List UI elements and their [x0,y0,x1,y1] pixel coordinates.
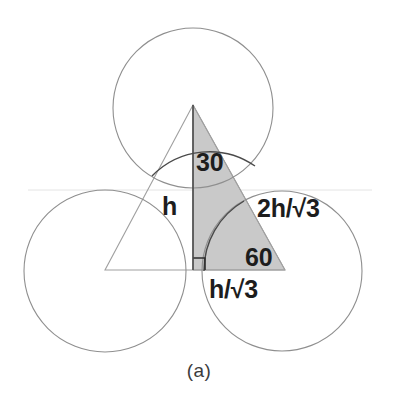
side-label-hypotenuse: 2h/√3 [257,196,320,221]
figure-container: 30 h 2h/√3 60 h/√3 (a) [0,0,398,414]
side-label-h: h [162,194,177,219]
figure-caption: (a) [0,360,398,382]
angle-label-60: 60 [245,245,272,270]
side-label-base: h/√3 [209,277,258,302]
geometry-diagram [0,0,398,414]
angle-label-30: 30 [196,150,223,175]
